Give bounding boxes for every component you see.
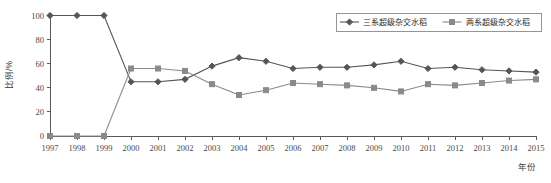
square-marker [75,134,80,139]
square-marker [318,82,323,87]
y-tick-label: 80 [36,35,45,45]
square-marker [237,93,242,98]
x-tick-label: 2009 [366,143,383,153]
y-tick-label: 60 [36,59,45,69]
diamond-marker [344,64,350,70]
chart-legend: 三系超级杂交水稻两系超级杂交水稻 [336,13,541,31]
x-tick-label: 2007 [312,143,329,153]
y-tick-label: 0 [40,131,44,141]
y-axis-ticks: 020406080100 [31,11,50,142]
diamond-marker [452,64,458,70]
diamond-marker [479,67,485,73]
x-tick-label: 2002 [177,143,194,153]
diamond-marker [101,12,107,18]
diamond-marker [317,64,323,70]
x-tick-label: 2005 [258,143,275,153]
square-marker [507,78,512,83]
x-tick-label: 2000 [123,143,140,153]
diamond-marker [236,55,242,61]
x-tick-label: 2013 [474,143,491,153]
square-marker [399,89,404,94]
line-chart: 020406080100 199719981999200020012002200… [0,0,551,183]
square-marker [156,66,161,71]
diamond-marker [533,69,539,75]
square-marker [48,134,53,139]
x-tick-label: 2010 [393,143,410,153]
square-marker [264,88,269,93]
x-tick-label: 2001 [150,143,167,153]
square-marker [102,134,107,139]
diamond-marker [371,62,377,68]
square-marker [345,83,350,88]
x-tick-label: 2011 [420,143,437,153]
series-line-path [50,69,536,136]
diamond-marker [425,65,431,71]
x-tick-label: 2006 [285,143,302,153]
square-marker [453,83,458,88]
diamond-marker [74,12,80,18]
diamond-marker [398,58,404,64]
square-marker [291,80,296,85]
y-tick-label: 40 [36,83,45,93]
x-tick-label: 2003 [204,143,221,153]
square-marker [426,82,431,87]
y-tick-label: 100 [31,11,44,21]
diamond-marker [182,76,188,82]
square-marker [372,85,377,90]
legend-square-marker [450,20,455,25]
square-marker [534,77,539,82]
legend-label: 两系超级杂交水稻 [466,17,530,27]
diamond-marker [290,65,296,71]
x-axis-ticks: 1997199819992000200120022003200420052006… [42,136,545,153]
y-axis-title: 比例/% [4,61,14,89]
diamond-marker [47,12,53,18]
square-marker [480,80,485,85]
legend-label: 三系超级杂交水稻 [363,17,427,27]
diamond-marker [128,79,134,85]
diamond-marker [263,58,269,64]
x-tick-label: 2012 [447,143,464,153]
diamond-marker [209,63,215,69]
x-tick-label: 1998 [69,143,86,153]
chart-container: 020406080100 199719981999200020012002200… [0,0,551,183]
x-axis-title: 年份 [518,162,536,172]
diamond-marker [155,79,161,85]
series-two-line [48,66,539,138]
y-tick-label: 20 [36,107,45,117]
x-tick-label: 2004 [231,143,249,153]
x-tick-label: 2008 [339,143,356,153]
x-tick-label: 2015 [528,143,545,153]
x-tick-label: 1999 [96,143,113,153]
diamond-marker [506,68,512,74]
square-marker [210,82,215,87]
x-tick-label: 2014 [501,143,519,153]
square-marker [183,68,188,73]
x-tick-label: 1997 [42,143,59,153]
square-marker [129,66,134,71]
